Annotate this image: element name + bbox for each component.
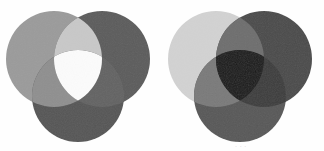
venn-panel-right (162, 0, 324, 151)
venn-figure-root: · · · (0, 0, 324, 151)
right-panel-caption: · · · (235, 143, 247, 149)
venn-diagram-right (162, 0, 324, 151)
venn-panel-left (0, 0, 162, 151)
venn-diagram-left (0, 0, 162, 151)
